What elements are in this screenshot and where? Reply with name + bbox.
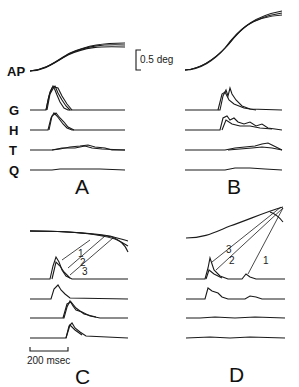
- panel-d-annotation-lines: [212, 207, 283, 274]
- horizontal-scale-label: 200 msec: [27, 355, 70, 366]
- horizontal-scale-bar: [30, 347, 68, 351]
- panel-d-ap-trace: [186, 207, 283, 238]
- panel-a-h-trace: [30, 113, 125, 130]
- row-label-ap: AP: [7, 65, 25, 78]
- panel-b-q-trace: [185, 168, 282, 170]
- panel-label-a: A: [75, 176, 89, 197]
- panel-d-annotation-1: 1: [263, 255, 269, 266]
- panel-c-g-trace: [30, 257, 128, 279]
- vertical-scale-label: 0.5 deg: [140, 54, 173, 65]
- panel-d-h-trace: [186, 288, 285, 299]
- panel-c-q-trace: [30, 323, 128, 338]
- panel-d-annotation-2: 2: [229, 255, 235, 266]
- row-label-g: G: [9, 104, 19, 117]
- panel-b-t-trace: [185, 143, 282, 150]
- panel-label-b: B: [227, 176, 241, 197]
- panel-a-t-trace: [30, 145, 125, 150]
- panel-d-t-trace: [186, 317, 285, 318]
- panel-b-ap-trace: [185, 11, 282, 70]
- row-label-t: T: [9, 144, 17, 157]
- panel-d-annotation-3: 3: [226, 244, 232, 255]
- panel-b-g-trace: [185, 88, 282, 110]
- panel-c-t-trace: [30, 301, 128, 318]
- row-label-q: Q: [9, 164, 19, 177]
- row-label-h: H: [9, 124, 18, 137]
- panel-c-h-trace: [30, 285, 128, 299]
- panel-a-g-trace: [30, 86, 125, 110]
- panel-d-g-trace: [186, 258, 285, 279]
- panel-a-q-trace: [30, 169, 125, 170]
- panel-c-annotation-3: 3: [82, 266, 88, 277]
- panel-label-c: C: [75, 366, 90, 387]
- panel-b-h-trace: [185, 116, 282, 130]
- panel-d-q-trace: [186, 337, 285, 338]
- panel-a-ap-trace: [30, 43, 125, 71]
- panel-label-d: D: [229, 364, 244, 385]
